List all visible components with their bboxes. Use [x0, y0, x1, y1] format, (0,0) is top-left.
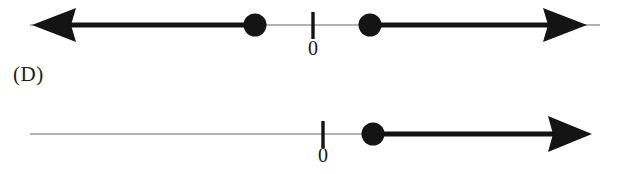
bottom-number-line: [0, 84, 619, 174]
bottom-zero-label: 0: [318, 145, 328, 165]
bottom-right-arrowhead-icon: [548, 116, 592, 152]
top-left-arrowhead-icon: [32, 8, 76, 42]
top-right-closed-point: [359, 14, 382, 37]
choice-label-d: (D): [13, 64, 44, 85]
top-right-arrowhead-icon: [543, 8, 587, 42]
bottom-closed-point: [362, 123, 385, 146]
number-line-figure: 0 (D) 0: [0, 0, 619, 174]
top-left-closed-point: [244, 14, 267, 37]
top-zero-label: 0: [308, 38, 318, 58]
